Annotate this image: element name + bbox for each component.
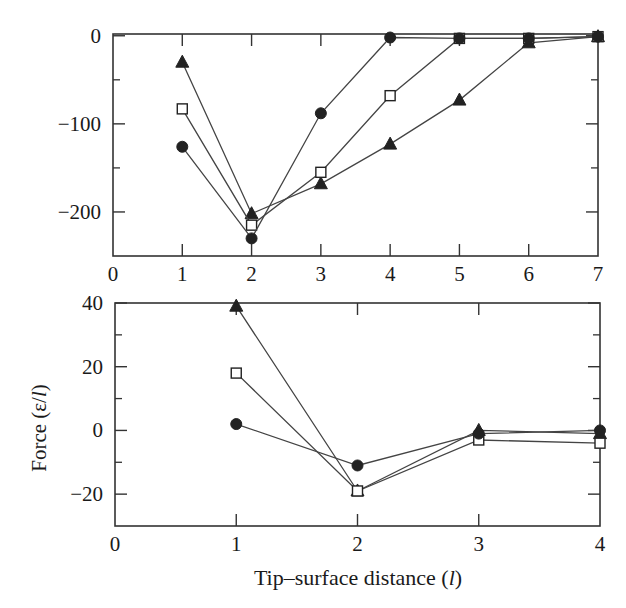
circle-marker	[246, 233, 257, 244]
chart-canvas: 012345670−100−200 0123440200−20 Force (ε…	[0, 0, 626, 608]
y-tick-label: −200	[58, 200, 101, 224]
x-tick-label: 3	[474, 532, 485, 556]
triangle-marker	[230, 299, 243, 311]
square-marker	[247, 220, 257, 230]
top-panel: 012345670−100−200	[58, 24, 605, 286]
circle-marker	[385, 32, 396, 43]
series-filled-triangle	[176, 30, 605, 219]
square-marker	[231, 368, 241, 378]
x-tick-label: 2	[352, 532, 363, 556]
triangle-marker	[314, 177, 327, 189]
triangle-marker	[176, 55, 189, 67]
series-open-square	[177, 32, 603, 231]
square-marker	[177, 104, 187, 114]
x-tick-label: 5	[454, 262, 465, 286]
circle-marker	[473, 428, 484, 439]
circle-marker	[177, 141, 188, 152]
series-filled-circle	[231, 419, 606, 471]
x-tick-label: 0	[110, 532, 121, 556]
x-tick-label: 1	[231, 532, 242, 556]
x-tick-label: 2	[246, 262, 257, 286]
y-tick-label: 20	[82, 355, 103, 379]
circle-marker	[315, 108, 326, 119]
y-tick-label: 0	[93, 418, 104, 442]
figure: 012345670−100−200 0123440200−20 Force (ε…	[0, 0, 626, 608]
square-marker	[316, 167, 326, 177]
y-tick-label: −100	[58, 112, 101, 136]
y-tick-label: 0	[91, 24, 102, 48]
x-tick-label: 3	[316, 262, 327, 286]
y-tick-label: −20	[70, 482, 103, 506]
triangle-marker	[453, 93, 466, 105]
circle-marker	[454, 33, 465, 44]
x-tick-label: 4	[385, 262, 396, 286]
x-tick-label: 1	[177, 262, 188, 286]
x-tick-label: 0	[108, 262, 119, 286]
triangle-marker	[384, 137, 397, 149]
circle-marker	[352, 460, 363, 471]
square-marker	[385, 91, 395, 101]
circle-marker	[595, 425, 606, 436]
x-tick-label: 4	[595, 532, 606, 556]
bottom-panel: 0123440200−20	[70, 291, 606, 556]
x-tick-label: 6	[523, 262, 534, 286]
circle-marker	[231, 419, 242, 430]
circle-marker	[523, 33, 534, 44]
x-axis-label: Tip–surface distance (l)	[254, 565, 462, 590]
square-marker	[595, 438, 605, 448]
series-filled-triangle	[230, 299, 607, 496]
y-axis-label: Force (ε/l)	[27, 384, 51, 472]
y-tick-label: 40	[82, 291, 103, 315]
circle-marker	[593, 31, 604, 42]
square-marker	[353, 486, 363, 496]
x-tick-label: 7	[593, 262, 604, 286]
